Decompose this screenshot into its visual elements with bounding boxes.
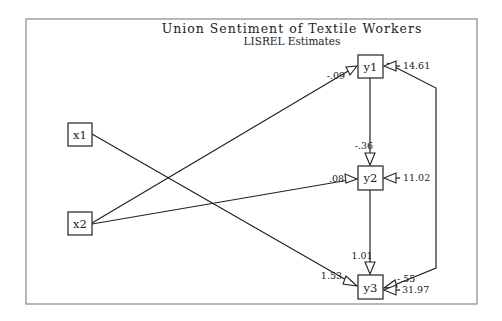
coef-y1-y3: -.55 (397, 273, 415, 284)
arrowhead-y1-y2 (365, 153, 375, 165)
arrowhead-error-y1 (384, 61, 396, 71)
arrowhead-x2-y2 (345, 174, 357, 183)
error-y1: 14.61 (403, 60, 430, 71)
node-label-x2: x2 (73, 217, 87, 231)
diagram-title: Union Sentiment of Textile Workers (162, 21, 423, 36)
coef-x1-y3: 1.53 (321, 270, 342, 281)
node-label-x1: x1 (73, 128, 87, 142)
node-label-y2: y2 (363, 171, 378, 185)
coef-x2-y1: -.09 (327, 70, 345, 81)
error-y3: 31.97 (402, 284, 429, 295)
arrowhead-x1-y3 (343, 276, 357, 286)
arrowhead-y2-y3 (365, 262, 375, 274)
diagram-subtitle: LISREL Estimates (244, 35, 341, 47)
coef-x2-y2: .08 (329, 173, 344, 184)
path-x1-y3 (92, 134, 355, 285)
path-diagram: Union Sentiment of Textile Workers LISRE… (0, 0, 502, 321)
node-y2: y2 (358, 166, 383, 190)
node-y1: y1 (358, 55, 383, 78)
arrowhead-x2-y1 (346, 66, 357, 75)
coef-y1-y2: -.36 (355, 140, 373, 151)
path-x2-y2 (92, 179, 355, 224)
node-label-y1: y1 (363, 60, 378, 74)
path-x2-y1 (92, 67, 355, 223)
node-x2: x2 (68, 212, 92, 235)
node-label-y3: y3 (363, 281, 378, 295)
error-y2: 11.02 (403, 172, 430, 183)
coef-y2-y3: 1.01 (351, 250, 372, 261)
arrowhead-error-y2 (384, 173, 396, 183)
node-x1: x1 (68, 123, 92, 146)
node-y3: y3 (358, 275, 383, 299)
